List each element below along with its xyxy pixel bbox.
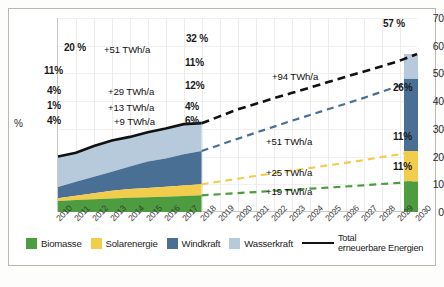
label-2010-total: 20 %	[64, 42, 86, 53]
annotation-past-windkraft: +29 TWh/a	[108, 86, 154, 97]
legend-label-windkraft: Windkraft	[182, 238, 221, 249]
legend-swatch-wasserkraft	[229, 238, 240, 249]
legend-label-wasserkraft: Wasserkraft	[244, 238, 293, 249]
chart-figure: % 70 60 50 40 30 20 10 0	[0, 0, 444, 287]
label-2018-biomasse: 6%	[185, 115, 199, 126]
annotation-past-total: +51 TWh/a	[104, 44, 150, 55]
annotation-future-solarenergie: +25 TWh/a	[266, 167, 312, 178]
label-2010-wasserkraft: 11%	[44, 65, 63, 76]
label-2010-windkraft: 4%	[47, 85, 61, 96]
legend-line-total	[302, 242, 334, 244]
legend-label-total-line2: erneuerbare Energien	[338, 243, 423, 253]
legend-label-total-line1: Total	[338, 233, 356, 243]
annotation-past-biomasse: +9 TWh/a	[114, 116, 155, 127]
legend-label-biomasse: Biomasse	[41, 238, 82, 249]
legend-label-solarenergie: Solarenergie	[106, 238, 158, 249]
legend-item-biomasse: Biomasse	[26, 238, 82, 249]
legend-item-solarenergie: Solarenergie	[91, 238, 158, 249]
legend-label-total: Total erneuerbare Energien	[338, 233, 423, 253]
legend-swatch-solarenergie	[91, 238, 102, 249]
legend-swatch-biomasse	[26, 238, 37, 249]
line-total-projection	[202, 54, 417, 123]
legend-item-windkraft: Windkraft	[167, 238, 221, 249]
label-2018-windkraft: 12%	[185, 80, 204, 91]
label-2030-total: 57 %	[383, 18, 405, 29]
label-2018-wasserkraft: 11%	[185, 57, 204, 68]
stacked-areas	[58, 121, 202, 212]
label-2010-biomasse: 4%	[47, 115, 61, 126]
annotation-future-biomasse: +19 TWh/a	[266, 186, 312, 197]
label-2030-biomasse: 11%	[393, 161, 412, 172]
legend-swatch-windkraft	[167, 238, 178, 249]
label-2010-solarenergie: 1%	[47, 100, 61, 111]
legend-item-wasserkraft: Wasserkraft	[229, 238, 293, 249]
annotation-past-solarenergie: +13 TWh/a	[108, 102, 154, 113]
plot-area: 20 % 11% 4% 1% 4% 32 % 11% 12% 4% 6% 57 …	[57, 18, 417, 212]
legend: Biomasse Solarenergie Windkraft Wasserkr…	[26, 228, 426, 258]
legend-item-total: Total erneuerbare Energien	[302, 233, 423, 253]
y-axis-title: %	[14, 118, 23, 129]
annotation-future-total: +94 TWh/a	[272, 71, 318, 82]
annotation-future-windkraft: +51 TWh/a	[266, 136, 312, 147]
label-2030-windkraft: 26%	[393, 82, 412, 93]
label-2030-solarenergie: 11%	[393, 131, 412, 142]
label-2018-solarenergie: 4%	[185, 101, 199, 112]
label-2018-total: 32 %	[186, 33, 208, 44]
